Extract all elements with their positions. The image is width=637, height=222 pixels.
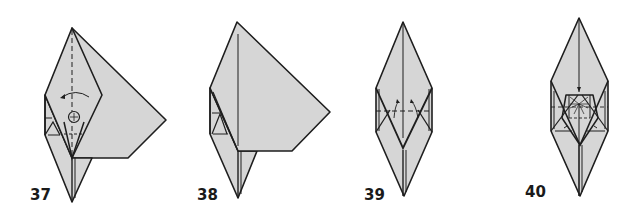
step-number: 37	[30, 186, 51, 204]
step-37-diagram	[0, 0, 180, 222]
step-39: 39	[360, 0, 500, 222]
step-number: 40	[525, 183, 546, 201]
step-38: 38	[180, 0, 360, 222]
step-number: 38	[197, 186, 218, 204]
step-number: 39	[364, 186, 385, 204]
step-37: 37	[0, 0, 180, 222]
step-40: 40	[520, 0, 637, 222]
